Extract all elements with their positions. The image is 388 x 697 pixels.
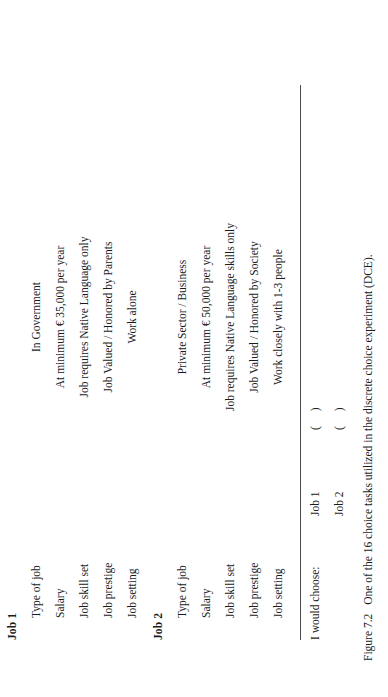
attribute-label-job-prestige: Job prestige	[248, 563, 260, 618]
attribute-label-salary: Salary	[54, 589, 66, 618]
attribute-row: Salary At minimum € 50,000 per year	[200, 78, 217, 618]
answer-section: I would choose: Job 1 ( ) Job 2 ( )	[309, 78, 361, 640]
attribute-value-job-setting: Work closely with 1-3 people	[272, 124, 284, 510]
answer-option-job-1[interactable]: Job 1 ( )	[309, 216, 326, 516]
attribute-value-job-skill-set: Job requires Native Language skills only	[224, 124, 236, 510]
figure-number: Figure 7.2	[362, 614, 374, 661]
attribute-label-type-of-job: Type of job	[30, 565, 42, 618]
attribute-row: Job skill set Job requires Native Langua…	[224, 78, 241, 618]
rotated-page-container: Job 1 Type of job In Government Salary A…	[0, 0, 388, 697]
answer-option-label: Job 1	[309, 491, 321, 516]
answer-option-label: Job 2	[333, 491, 345, 516]
choice-task-table: Job 1 Type of job In Government Salary A…	[0, 78, 300, 640]
attribute-label-job-setting: Job setting	[272, 568, 284, 618]
answer-option-checkbox[interactable]: ( )	[309, 401, 321, 430]
attribute-label-salary: Salary	[200, 589, 212, 618]
attribute-value-job-prestige: Job Valued / Honored by Society	[248, 124, 260, 510]
attribute-value-job-skill-set: Job requires Native Language only	[78, 124, 90, 510]
alternative-heading-job-1: Job 1	[6, 613, 18, 640]
figure-caption-text: One of the 16 choice tasks utilized in t…	[362, 254, 374, 604]
attribute-label-job-prestige: Job prestige	[102, 563, 114, 618]
attribute-row: Salary At minimum € 35,000 per year	[54, 78, 71, 618]
attribute-label-job-skill-set: Job skill set	[224, 564, 236, 618]
attribute-row: Type of job Private Sector / Business	[176, 78, 193, 618]
answer-option-job-2[interactable]: Job 2 ( )	[333, 216, 350, 516]
attribute-label-type-of-job: Type of job	[176, 565, 188, 618]
attribute-row: Job skill set Job requires Native Langua…	[78, 78, 95, 618]
horizontal-rule	[300, 85, 301, 640]
attribute-label-job-setting: Job setting	[126, 568, 138, 618]
attribute-row: Job setting Work alone	[126, 78, 143, 618]
attribute-row: Job prestige Job Valued / Honored by Soc…	[248, 78, 265, 618]
attribute-value-type-of-job: Private Sector / Business	[176, 124, 188, 510]
attribute-value-job-prestige: Job Valued / Honored by Parents	[102, 124, 114, 510]
attribute-row: Job prestige Job Valued / Honored by Par…	[102, 78, 119, 618]
attribute-row: Job setting Work closely with 1-3 people	[272, 78, 289, 618]
document-page: Job 1 Type of job In Government Salary A…	[0, 0, 388, 697]
attribute-value-salary: At minimum € 35,000 per year	[54, 124, 66, 510]
attribute-value-salary: At minimum € 50,000 per year	[200, 124, 212, 510]
figure-caption: Figure 7.2One of the 16 choice tasks uti…	[362, 21, 374, 661]
attribute-row: Type of job In Government	[30, 78, 47, 618]
attribute-value-job-setting: Work alone	[126, 124, 138, 510]
alternative-heading-job-2: Job 2	[152, 613, 164, 640]
attribute-label-job-skill-set: Job skill set	[78, 564, 90, 618]
answer-prompt: I would choose:	[309, 567, 321, 640]
answer-option-checkbox[interactable]: ( )	[333, 401, 345, 430]
attribute-value-type-of-job: In Government	[30, 124, 42, 510]
